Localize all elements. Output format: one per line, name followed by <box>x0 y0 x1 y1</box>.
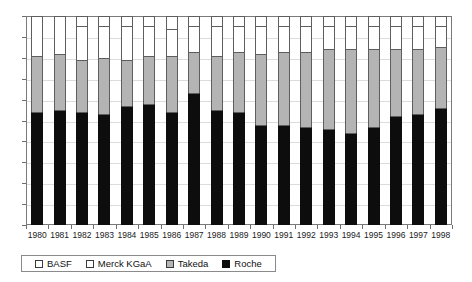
bar-segment-merck-kgaa <box>255 26 267 53</box>
bar-segment-roche <box>166 112 178 225</box>
x-axis-tick-mark <box>71 225 72 229</box>
bar-segment-takeda <box>31 56 43 112</box>
bar-segment-takeda <box>233 52 245 113</box>
bar-segment-roche <box>211 110 223 225</box>
bar-segment-basf <box>121 16 133 26</box>
bar-segment-takeda <box>211 56 223 110</box>
legend-item-roche[interactable]: Roche <box>222 259 261 269</box>
bar-segment-takeda <box>390 49 402 116</box>
bar-segment-basf <box>166 16 178 29</box>
bar-segment-takeda <box>98 58 110 114</box>
bar-segment-merck-kgaa <box>345 26 357 49</box>
bar-1987[interactable] <box>188 16 200 225</box>
bar-segment-roche <box>345 133 357 225</box>
legend-item-merck-kgaa[interactable]: Merck KGaA <box>86 259 152 269</box>
bar-segment-basf <box>435 16 447 26</box>
bar-segment-takeda <box>300 52 312 127</box>
bar-1990[interactable] <box>255 16 267 225</box>
merck-swatch <box>86 260 94 268</box>
x-axis-tick-mark <box>93 225 94 229</box>
bar-segment-merck-kgaa <box>323 26 335 49</box>
x-axis-tick-mark <box>228 225 229 229</box>
bar-1991[interactable] <box>278 16 290 225</box>
bar-segment-basf <box>412 16 424 26</box>
x-axis-tick-mark <box>26 225 27 229</box>
roche-swatch <box>222 260 230 268</box>
bar-segment-takeda <box>345 49 357 133</box>
bar-segment-takeda <box>368 49 380 126</box>
bar-1995[interactable] <box>368 16 380 225</box>
bar-segment-roche <box>31 112 43 225</box>
bar-segment-takeda <box>121 60 133 106</box>
bar-segment-takeda <box>323 49 335 128</box>
bar-1993[interactable] <box>323 16 335 225</box>
bar-segment-merck-kgaa <box>188 26 200 51</box>
legend-item-label: Takeda <box>178 259 209 269</box>
basf-swatch <box>35 260 43 268</box>
bar-1983[interactable] <box>98 16 110 225</box>
bar-segment-roche <box>143 104 155 225</box>
bar-segment-basf <box>300 16 312 26</box>
x-axis-tick-mark <box>183 225 184 229</box>
bar-segment-merck-kgaa <box>143 26 155 55</box>
bar-segment-roche <box>188 93 200 225</box>
legend-item-takeda[interactable]: Takeda <box>166 259 209 269</box>
bar-segment-basf <box>368 16 380 26</box>
bar-1984[interactable] <box>121 16 133 225</box>
bar-segment-roche <box>300 127 312 225</box>
bar-segment-basf <box>143 16 155 26</box>
x-axis-tick-mark <box>362 225 363 229</box>
bar-1988[interactable] <box>211 16 223 225</box>
bar-segment-roche <box>368 127 380 225</box>
bar-1989[interactable] <box>233 16 245 225</box>
bar-segment-merck-kgaa <box>31 16 43 56</box>
bar-segment-takeda <box>143 56 155 104</box>
bar-segment-merck-kgaa <box>233 26 245 51</box>
bar-segment-merck-kgaa <box>278 26 290 51</box>
bar-segment-merck-kgaa <box>76 26 88 59</box>
bar-segment-basf <box>345 16 357 26</box>
bar-segment-roche <box>121 106 133 225</box>
bar-segment-roche <box>435 108 447 225</box>
bar-segment-roche <box>54 110 66 225</box>
takeda-swatch <box>166 260 174 268</box>
bar-segment-merck-kgaa <box>390 26 402 49</box>
bar-1992[interactable] <box>300 16 312 225</box>
bar-segment-takeda <box>278 52 290 125</box>
bar-1994[interactable] <box>345 16 357 225</box>
x-axis-tick-mark <box>317 225 318 229</box>
bar-segment-roche <box>278 125 290 225</box>
bar-segment-roche <box>412 114 424 225</box>
bar-segment-basf <box>278 16 290 26</box>
bars-layer <box>26 16 452 225</box>
bar-segment-roche <box>255 125 267 225</box>
bar-segment-merck-kgaa <box>211 26 223 55</box>
bar-segment-roche <box>323 129 335 225</box>
x-axis-tick-mark <box>407 225 408 229</box>
bar-segment-takeda <box>412 49 424 114</box>
legend-item-label: BASF <box>47 259 72 269</box>
bar-1985[interactable] <box>143 16 155 225</box>
x-axis: 1980198119821983198419851986198719881989… <box>26 225 452 249</box>
x-axis-tick-mark <box>138 225 139 229</box>
bar-segment-basf <box>211 16 223 26</box>
bar-1981[interactable] <box>54 16 66 225</box>
bar-segment-takeda <box>188 52 200 94</box>
bar-segment-merck-kgaa <box>121 26 133 59</box>
legend-item-label: Roche <box>234 259 261 269</box>
y-axis: 0%10%20%30%40%50%60%70%80%90%100% <box>0 0 27 241</box>
bar-1986[interactable] <box>166 16 178 225</box>
x-axis-tick-label: 1998 <box>428 230 454 240</box>
bar-1980[interactable] <box>31 16 43 225</box>
x-axis-tick-mark <box>250 225 251 229</box>
bar-segment-takeda <box>435 47 447 108</box>
bar-1997[interactable] <box>412 16 424 225</box>
bar-segment-merck-kgaa <box>368 26 380 49</box>
bar-segment-merck-kgaa <box>54 16 66 54</box>
bar-1998[interactable] <box>435 16 447 225</box>
legend-item-basf[interactable]: BASF <box>35 259 72 269</box>
bar-1982[interactable] <box>76 16 88 225</box>
bar-segment-basf <box>233 16 245 26</box>
bar-1996[interactable] <box>390 16 402 225</box>
bar-segment-basf <box>323 16 335 26</box>
